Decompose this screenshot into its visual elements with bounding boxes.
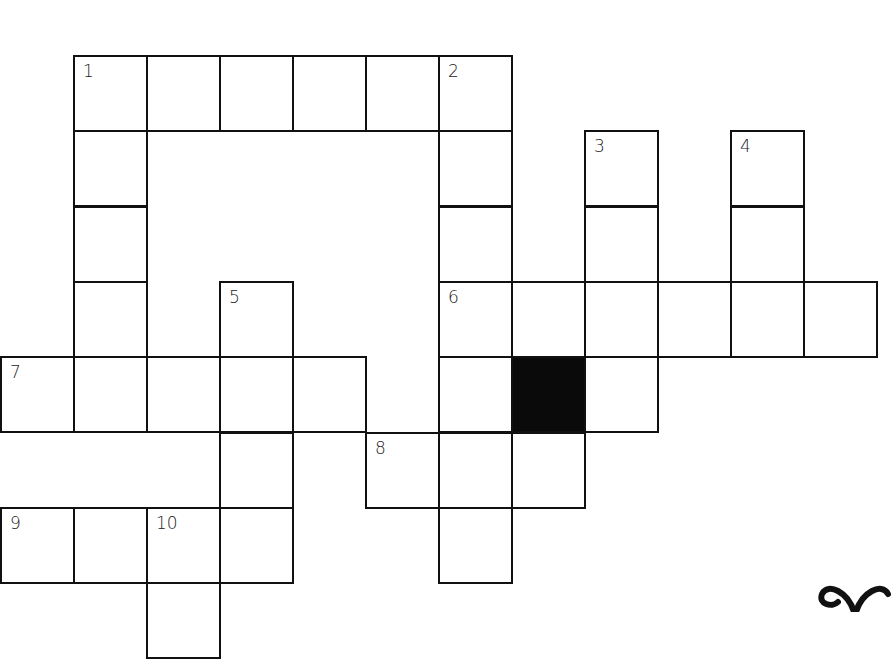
crossword-cell[interactable] — [584, 281, 659, 358]
clue-number: 5 — [229, 289, 240, 306]
crossword-cell[interactable] — [219, 55, 294, 132]
crossword-cell[interactable] — [292, 55, 367, 132]
crossword-cell[interactable]: 6 — [438, 281, 513, 358]
crossword-cell[interactable] — [365, 55, 440, 132]
clue-number: 2 — [448, 63, 459, 80]
crossword-cell[interactable] — [146, 356, 221, 433]
crossword-cell[interactable] — [219, 432, 294, 509]
clue-number: 6 — [448, 289, 459, 306]
clue-number: 8 — [375, 440, 386, 457]
crossword-cell[interactable] — [730, 281, 805, 358]
crossword-cell[interactable] — [73, 206, 148, 283]
crossword-cell[interactable]: 3 — [584, 130, 659, 207]
crossword-cell[interactable] — [438, 130, 513, 207]
clue-number: 9 — [10, 515, 21, 532]
crossword-cell[interactable] — [73, 356, 148, 433]
crossword-cell[interactable] — [73, 130, 148, 207]
crossword-cell[interactable]: 5 — [219, 281, 294, 358]
crossword-cell[interactable]: 1 — [73, 55, 148, 132]
crossword-cell[interactable] — [511, 432, 586, 509]
clue-number: 7 — [10, 364, 21, 381]
crossword-cell[interactable]: 4 — [730, 130, 805, 207]
crossword-cell[interactable] — [73, 281, 148, 358]
crossword-cell[interactable] — [438, 507, 513, 584]
crossword-cell[interactable] — [584, 206, 659, 283]
clue-number: 1 — [83, 63, 94, 80]
clue-number: 10 — [156, 515, 178, 532]
crossword-cell[interactable] — [657, 281, 732, 358]
crossword-cell[interactable]: 7 — [0, 356, 75, 433]
crossword-cell[interactable] — [803, 281, 878, 358]
bow-icon — [818, 582, 891, 612]
crossword-cell[interactable] — [438, 356, 513, 433]
crossword-cell[interactable]: 2 — [438, 55, 513, 132]
crossword-cell[interactable] — [584, 356, 659, 433]
crossword-cell[interactable] — [292, 356, 367, 433]
crossword-cell[interactable] — [73, 507, 148, 584]
crossword-cell[interactable]: 8 — [365, 432, 440, 509]
blocked-cell — [511, 356, 586, 433]
crossword-cell[interactable] — [146, 55, 221, 132]
crossword-cell[interactable] — [219, 507, 294, 584]
crossword-cell[interactable]: 10 — [146, 507, 221, 584]
crossword-cell[interactable] — [730, 206, 805, 283]
crossword-cell[interactable]: 9 — [0, 507, 75, 584]
clue-number: 4 — [740, 138, 751, 155]
crossword-cell[interactable] — [146, 582, 221, 659]
clue-number: 3 — [594, 138, 605, 155]
crossword-cell[interactable] — [438, 432, 513, 509]
crossword-cell[interactable] — [219, 356, 294, 433]
crossword-cell[interactable] — [438, 206, 513, 283]
crossword-cell[interactable] — [511, 281, 586, 358]
